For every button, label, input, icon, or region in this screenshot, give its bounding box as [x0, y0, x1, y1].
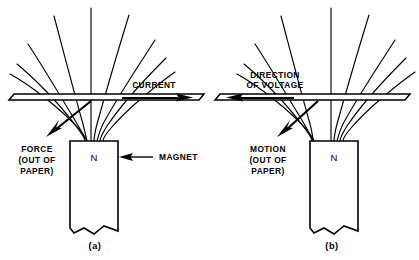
current-label: CURRENT [132, 80, 176, 90]
force-arrow-head [46, 120, 62, 137]
field-line [334, 15, 369, 141]
field-line [10, 74, 87, 141]
panel-a: CURRENT FORCE (OUT OF PAPER) N [9, 8, 204, 251]
field-line [343, 72, 415, 141]
voltage-label-line-2: OF VOLTAGE [246, 80, 303, 90]
magnet-pole-label: N [331, 152, 338, 163]
force-label-line-1: FORCE [21, 144, 52, 154]
motion-arrow-shaft [286, 101, 318, 130]
magnet-callout-label: MAGNET [159, 152, 198, 162]
field-lines-a [10, 8, 175, 141]
panel-caption-b: (b) [325, 241, 339, 251]
field-line [94, 15, 129, 141]
force-arrow-shaft [55, 101, 91, 130]
panel-b: DIRECTION OF VOLTAGE MOTION (OUT OF PAPE… [215, 8, 415, 251]
force-label-line-3: PAPER) [20, 166, 53, 176]
field-line [54, 16, 87, 141]
magnet-callout-a: MAGNET [119, 152, 198, 162]
magnet-pole-label: N [91, 152, 98, 163]
motion-label-line-3: PAPER) [251, 166, 284, 176]
panel-caption-a: (a) [88, 241, 101, 251]
voltage-label-line-1: DIRECTION [250, 70, 300, 80]
force-label-a: FORCE (OUT OF PAPER) [18, 144, 55, 176]
current-label-group-a: CURRENT [122, 80, 193, 102]
magnet-b: N [310, 141, 358, 234]
motion-arrow-head [277, 120, 293, 137]
motion-label-line-1: MOTION [250, 144, 286, 154]
field-line [97, 40, 155, 141]
field-line [337, 40, 395, 141]
motion-label-b: MOTION (OUT OF PAPER) [249, 144, 286, 176]
force-label-line-2: (OUT OF [18, 155, 55, 165]
motion-label-line-2: (OUT OF [249, 155, 286, 165]
figure-container: CURRENT FORCE (OUT OF PAPER) N [0, 0, 419, 260]
magnet-a: N [70, 141, 118, 234]
physics-diagram: CURRENT FORCE (OUT OF PAPER) N [0, 0, 419, 260]
